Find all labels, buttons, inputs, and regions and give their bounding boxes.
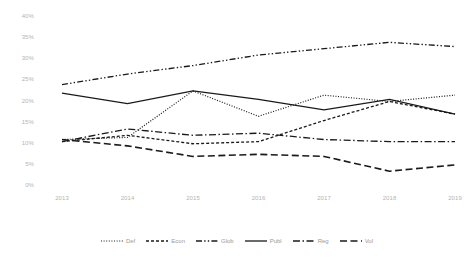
series-line-reg xyxy=(62,129,455,142)
y-axis-tick-25pct: 25% xyxy=(8,76,34,82)
x-axis-tick-2014: 2014 xyxy=(108,195,148,201)
y-axis-tick-15pct: 15% xyxy=(8,119,34,125)
y-axis-tick-0pct: 0% xyxy=(8,182,34,188)
line-chart: 0%5%10%15%20%25%30%35%40% 20132014201520… xyxy=(0,0,474,257)
y-axis-tick-10pct: 10% xyxy=(8,140,34,146)
legend-item-publ[interactable]: Publ xyxy=(245,237,282,245)
legend-label-glob: Glob xyxy=(221,237,234,245)
y-axis-tick-30pct: 30% xyxy=(8,55,34,61)
series-line-def xyxy=(62,91,455,140)
legend-item-vol[interactable]: Vol xyxy=(340,237,373,245)
legend-item-glob[interactable]: Glob xyxy=(196,237,234,245)
legend-swatch-econ xyxy=(146,237,168,245)
series-line-econ xyxy=(62,102,455,144)
series-line-glob xyxy=(62,42,455,84)
x-axis-tick-2018: 2018 xyxy=(370,195,410,201)
x-axis-tick-2017: 2017 xyxy=(304,195,344,201)
legend-swatch-def xyxy=(101,237,123,245)
legend-label-publ: Publ xyxy=(270,237,282,245)
y-axis-tick-5pct: 5% xyxy=(8,161,34,167)
x-axis-tick-2019: 2019 xyxy=(435,195,474,201)
chart-plot-area xyxy=(0,0,474,257)
series-line-vol xyxy=(62,140,455,172)
y-axis-tick-35pct: 35% xyxy=(8,34,34,40)
x-axis-tick-2016: 2016 xyxy=(239,195,279,201)
legend-label-def: Def xyxy=(126,237,135,245)
y-axis-tick-20pct: 20% xyxy=(8,98,34,104)
y-axis-tick-40pct: 40% xyxy=(8,13,34,19)
legend-item-def[interactable]: Def xyxy=(101,237,135,245)
chart-legend: DefEconGlobPublRegVol xyxy=(0,232,474,250)
legend-label-econ: Econ xyxy=(171,237,185,245)
x-axis-tick-2013: 2013 xyxy=(42,195,82,201)
legend-swatch-publ xyxy=(245,237,267,245)
x-axis-tick-2015: 2015 xyxy=(173,195,213,201)
legend-swatch-vol xyxy=(340,237,362,245)
series-layer xyxy=(62,42,455,171)
legend-label-vol: Vol xyxy=(365,237,373,245)
legend-item-econ[interactable]: Econ xyxy=(146,237,185,245)
legend-label-reg: Reg xyxy=(318,237,329,245)
legend-swatch-reg xyxy=(293,237,315,245)
legend-swatch-glob xyxy=(196,237,218,245)
legend-item-reg[interactable]: Reg xyxy=(293,237,329,245)
